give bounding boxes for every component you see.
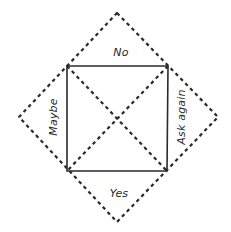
fortune-teller-diagram: No Maybe Ask again Yes: [0, 0, 231, 232]
label-right: Ask again: [175, 89, 188, 145]
label-bottom: Yes: [110, 187, 129, 200]
label-left: Maybe: [47, 98, 60, 136]
label-top: No: [113, 46, 128, 59]
diagram-svg: No Maybe Ask again Yes: [0, 0, 231, 232]
